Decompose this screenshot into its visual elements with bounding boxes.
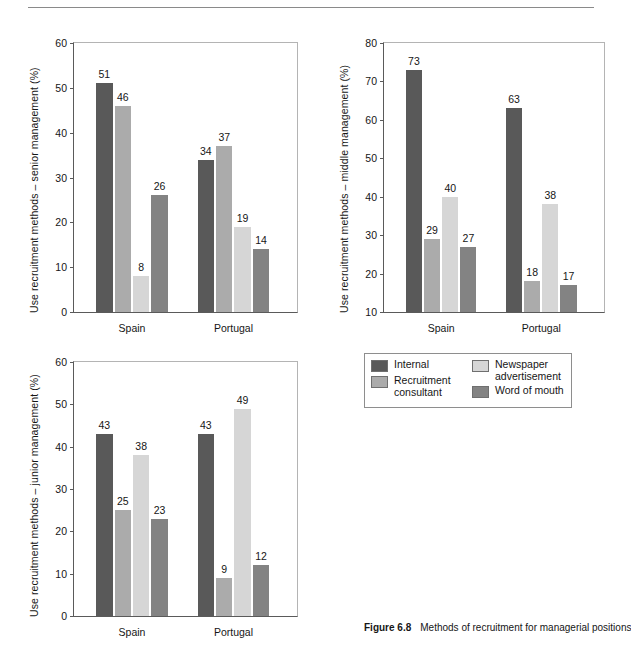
y-tick-middle-60: 60 [365,114,384,126]
y-tick-junior-30: 30 [55,483,74,495]
y-tick-senior-10: 10 [55,261,74,273]
bar-junior-spain-word-of-mouth: 23 [150,519,168,616]
bar-value-label: 49 [237,394,249,406]
y-tick-senior-0: 0 [61,306,74,318]
y-tick-middle-70: 70 [365,75,384,87]
legend-item-word-of-mouth: Word of mouth [472,385,564,398]
bar-value-label: 14 [255,234,267,246]
bar-value-label: 23 [154,504,166,516]
bar-middle-portugal-newspaper-advertisement: 38 [541,204,559,312]
legend-item-newspaper-advertisement: Newspaper advertisement [472,359,564,382]
bar-middle-portugal-recruitment-consultant: 18 [523,281,541,312]
bar-middle-spain-internal: 73 [405,70,423,312]
y-tick-middle-40: 40 [365,191,384,203]
bar-junior-spain-newspaper-advertisement: 38 [132,455,150,616]
legend-label-internal: Internal [394,359,429,371]
bar-value-label: 43 [200,419,212,431]
y-tick-middle-10: 10 [365,306,384,318]
bar-middle-spain-recruitment-consultant: 29 [423,239,441,312]
bar-senior-spain-internal: 51 [95,83,113,312]
legend-column-left: Internal Recruitment consultant [371,359,451,401]
bar-middle-portugal-internal: 63 [505,108,523,312]
x-axis-category-portugal: Portugal [214,322,253,334]
y-tick-junior-40: 40 [55,441,74,453]
y-tick-middle-30: 30 [365,229,384,241]
legend-label-word-of-mouth: Word of mouth [495,385,564,397]
bar-value-label: 63 [508,93,520,105]
legend-column-right: Newspaper advertisement Word of mouth [472,359,564,401]
bar-value-label: 26 [154,180,166,192]
legend-item-recruitment-consultant: Recruitment consultant [371,375,451,398]
bar-middle-spain-newspaper-advertisement: 40 [441,197,459,312]
plot-area-junior: 010203040506043253823Spain4394912Portuga… [73,361,298,617]
bar-value-label: 17 [563,270,575,282]
bar-value-label: 73 [408,55,420,67]
bar-senior-portugal-word-of-mouth: 14 [252,249,270,312]
bar-value-label: 19 [237,212,249,224]
legend-swatch-recruitment-consultant [371,376,388,388]
y-tick-middle-20: 20 [365,268,384,280]
bar-value-label: 25 [117,495,129,507]
y-tick-senior-30: 30 [55,172,74,184]
y-tick-middle-80: 80 [365,37,384,49]
legend-label-recruitment-consultant: Recruitment consultant [394,375,451,398]
bar-senior-portugal-internal: 34 [197,160,215,312]
bar-value-label: 27 [463,232,475,244]
legend-item-internal: Internal [371,359,451,372]
bar-senior-portugal-recruitment-consultant: 37 [215,146,233,312]
bar-value-label: 40 [444,182,456,194]
x-axis-category-spain: Spain [119,626,146,638]
y-axis-label-junior: Use recruitment methods – junior managem… [28,374,40,617]
bar-middle-portugal-word-of-mouth: 17 [559,285,577,312]
figure-caption: Figure 6.8Methods of recruitment for man… [364,622,631,633]
legend-swatch-word-of-mouth [472,386,489,398]
y-tick-senior-40: 40 [55,127,74,139]
legend-swatch-internal [371,360,388,372]
bar-junior-portugal-recruitment-consultant: 9 [215,578,233,616]
y-tick-junior-60: 60 [55,356,74,368]
bar-value-label: 37 [218,131,230,143]
legend-swatch-newspaper-advertisement [472,360,489,372]
bar-junior-spain-recruitment-consultant: 25 [114,510,132,616]
bar-junior-spain-internal: 43 [95,434,113,616]
bar-senior-spain-word-of-mouth: 26 [150,195,168,312]
bar-value-label: 38 [545,189,557,201]
page-top-rule [28,7,594,8]
plot-area-middle: 102030405060708073294027Spain63183817Por… [383,42,605,313]
bar-value-label: 34 [200,145,212,157]
plot-area-senior: 01020304050605146826Spain34371914Portuga… [73,42,298,313]
x-axis-category-portugal: Portugal [214,626,253,638]
y-tick-junior-50: 50 [55,398,74,410]
bar-value-label: 46 [117,91,129,103]
y-tick-junior-20: 20 [55,525,74,537]
bar-senior-spain-newspaper-advertisement: 8 [132,276,150,312]
bar-value-label: 8 [138,261,144,273]
y-axis-label-senior: Use recruitment methods – senior managem… [28,67,40,313]
y-tick-junior-10: 10 [55,568,74,580]
bar-junior-portugal-internal: 43 [197,434,215,616]
x-axis-category-spain: Spain [119,322,146,334]
legend-label-newspaper-advertisement: Newspaper advertisement [495,359,561,382]
y-tick-middle-50: 50 [365,152,384,164]
bar-senior-spain-recruitment-consultant: 46 [114,106,132,312]
y-tick-junior-0: 0 [61,610,74,622]
bar-value-label: 9 [221,563,227,575]
bar-value-label: 51 [99,68,111,80]
y-tick-senior-60: 60 [55,37,74,49]
figure-caption-text: Methods of recruitment for managerial po… [420,622,631,633]
x-axis-category-portugal: Portugal [522,322,561,334]
bar-value-label: 38 [135,440,147,452]
bar-middle-spain-word-of-mouth: 27 [459,247,477,312]
figure-number: Figure 6.8 [364,622,411,633]
bar-value-label: 12 [255,550,267,562]
chart-legend: Internal Recruitment consultant Newspape… [364,353,572,408]
bar-value-label: 29 [426,224,438,236]
x-axis-category-spain: Spain [428,322,455,334]
bar-senior-portugal-newspaper-advertisement: 19 [233,227,251,312]
bar-value-label: 43 [99,419,111,431]
bar-junior-portugal-word-of-mouth: 12 [252,565,270,616]
bar-value-label: 18 [526,266,538,278]
bar-junior-portugal-newspaper-advertisement: 49 [233,409,251,616]
y-tick-senior-20: 20 [55,216,74,228]
y-axis-label-middle: Use recruitment methods – middle managem… [338,65,350,313]
